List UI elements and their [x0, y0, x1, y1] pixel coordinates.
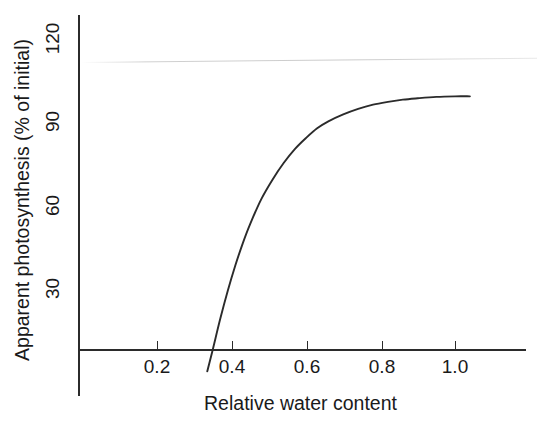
- y-tick-label-90: 90: [43, 100, 62, 144]
- x-tick-label-0.6: 0.6: [277, 356, 337, 378]
- data-curve: [207, 96, 470, 371]
- chart-figure: 120 90 60 30 0.2 0.4 0.6 0.8 1.0 Apparen…: [0, 0, 541, 425]
- x-tick-label-0.8: 0.8: [352, 356, 412, 378]
- x-axis-title: Relative water content: [0, 392, 541, 414]
- x-tick-label-1.0: 1.0: [425, 356, 485, 378]
- x-tick-label-0.2: 0.2: [127, 356, 187, 378]
- y-tick-label-30: 30: [43, 267, 62, 311]
- y-axis-title: Apparent photosynthesis (% of initial): [12, 39, 32, 361]
- y-tick-label-120: 120: [43, 17, 62, 61]
- x-tick-label-0.4: 0.4: [202, 356, 262, 378]
- y-tick-label-60: 60: [43, 184, 62, 228]
